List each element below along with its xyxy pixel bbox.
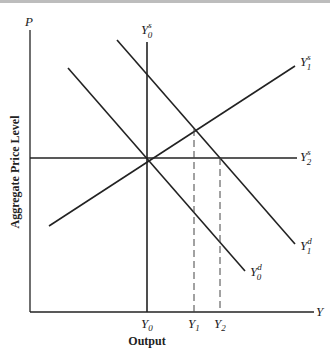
label-Y0d: Yd0 <box>250 262 262 282</box>
label-Y2s: Ys2 <box>300 147 312 167</box>
tick-Y1: Y1 <box>188 316 200 333</box>
y-axis-title: Aggregate Price Level <box>8 115 22 229</box>
curve-Y0d <box>68 68 245 271</box>
tick-Y2: Y2 <box>214 316 226 333</box>
label-Y0s: Ys0 <box>141 20 153 40</box>
label-Y1d: Yd1 <box>300 236 312 256</box>
x-axis-title: Output <box>128 334 165 348</box>
tick-Y0: Y0 <box>141 316 153 333</box>
label-Y1s: Ys1 <box>300 52 311 72</box>
as-ad-diagram: P Y Ys0 Ys1 Ys2 Yd0 Yd1 Y0 Y1 Y2 Output … <box>0 0 330 354</box>
curve-Y1d <box>117 40 295 244</box>
p-axis-label: P <box>24 14 33 29</box>
y-axis-label: Y <box>316 304 325 319</box>
